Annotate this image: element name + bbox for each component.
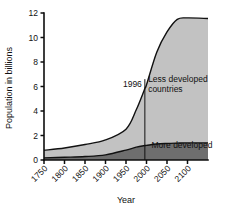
- y-tick-label-10: 10: [29, 33, 39, 43]
- population-area-chart: 024681012 175018001850190019502000205021…: [0, 0, 229, 212]
- less-developed-label-line1: Less developed: [148, 74, 208, 84]
- y-tick-label-4: 4: [33, 106, 38, 116]
- more-developed-label: More developed: [151, 140, 212, 150]
- y-tick-label-12: 12: [29, 8, 39, 18]
- x-axis-title: Year: [117, 195, 135, 205]
- y-tick-label-8: 8: [33, 57, 38, 67]
- less-developed-label-line2: countries: [148, 84, 183, 94]
- y-tick-label-2: 2: [33, 131, 38, 141]
- y-tick-label-6: 6: [33, 82, 38, 92]
- y-axis-title: Population in billions: [4, 46, 14, 129]
- year-1996-label: 1996: [123, 79, 142, 89]
- chart-svg: 024681012 175018001850190019502000205021…: [0, 0, 229, 212]
- y-tick-label-0: 0: [33, 155, 38, 165]
